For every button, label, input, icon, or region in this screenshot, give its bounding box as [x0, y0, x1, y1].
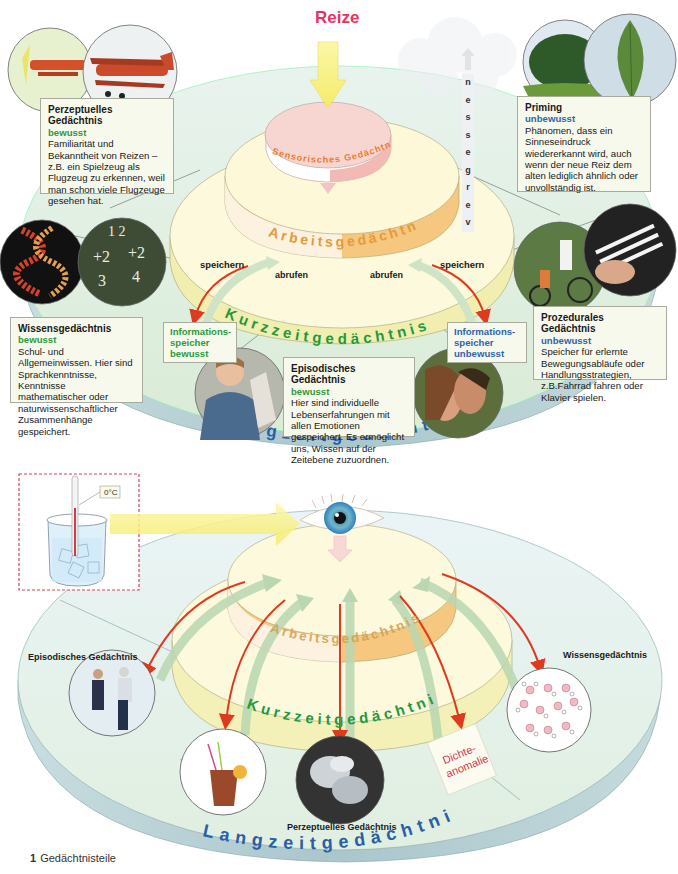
photo-dna [0, 220, 84, 304]
card-title: Episodisches Gedächtnis [291, 363, 407, 386]
card-text: Schul- und Allgemeinwissen. Hier sind Sp… [18, 346, 135, 437]
svg-text:1 2: 1 2 [108, 224, 126, 239]
forget-letter: g [462, 162, 474, 180]
photo-piano [584, 204, 676, 296]
photo-water-molecules [507, 668, 591, 752]
card-text: Speicher für erlernte Bewegungsabläufe o… [541, 346, 659, 403]
card-type: unbewusst [541, 335, 659, 346]
forget-letter: r [462, 179, 474, 197]
card-episodic-memory: Episodisches Gedächtnis bewusst Hier sin… [283, 357, 415, 437]
store-right-label: speichern [440, 259, 484, 270]
caption-text: Gedächtnisteile [40, 852, 116, 864]
retrieve-right-label: abrufen [370, 270, 403, 280]
card-type: unbewusst [525, 113, 643, 124]
photo-iced-drink [180, 729, 266, 815]
card-title: Priming [525, 102, 643, 113]
svg-text:+2: +2 [93, 248, 110, 265]
caption-number: 1 [30, 852, 36, 864]
perceptual-label-bottom: Perzeptuelles Gedächtnis [287, 822, 397, 832]
svg-text:0°C: 0°C [104, 488, 118, 497]
photo-ice-skating [69, 650, 155, 736]
photo-leaf [584, 14, 676, 106]
figure-caption: 1Gedächtnisteile [30, 852, 116, 864]
knowledge-label-bottom: Wissensgedächtnis [563, 650, 647, 660]
forget-letter: n [462, 74, 474, 92]
card-knowledge-memory: Wissensgedächtnis bewusst Schul- und All… [10, 317, 143, 403]
retrieve-left-label: abrufen [275, 270, 308, 280]
store-left-label: speichern [200, 259, 244, 270]
forgetting-label: n e s s e g r e v [462, 74, 474, 232]
card-type: bewusst [18, 334, 135, 345]
episodic-label-bottom: Episodisches Gedächtnis [28, 652, 138, 662]
svg-text:3: 3 [98, 272, 106, 289]
card-text: Familiarität und Bekanntheit von Reizen … [48, 138, 166, 206]
card-priming: Priming unbewusst Phänomen, dass ein Sin… [517, 96, 651, 192]
forget-letter: e [462, 92, 474, 110]
stimuli-label: Reize [315, 8, 359, 28]
card-procedural-memory: Prozedurales Gedächtnis unbewusst Speich… [533, 306, 667, 380]
tag-line: unbewusst [454, 348, 520, 359]
forget-letter: v [462, 214, 474, 232]
card-title: Prozedurales Gedächtnis [541, 312, 659, 335]
photo-ice-cubes [296, 736, 384, 824]
card-type: bewusst [291, 386, 407, 397]
card-perceptual-memory: Perzeptuelles Gedächtnis bewusst Familia… [40, 98, 174, 194]
tag-line: bewusst [170, 348, 230, 359]
tag-line: Informations- [454, 326, 520, 337]
card-text: Phänomen, dass ein Sinneseindruck wieder… [525, 125, 643, 193]
info-store-unconscious: Informations- speicher unbewusst [447, 322, 527, 363]
forget-letter: s [462, 109, 474, 127]
card-title: Perzeptuelles Gedächtnis [48, 104, 166, 127]
tag-line: speicher [170, 337, 230, 348]
info-store-conscious: Informations- speicher bewusst [163, 322, 237, 363]
tag-line: speicher [454, 337, 520, 348]
card-title: Wissensgedächtnis [18, 323, 135, 334]
card-type: bewusst [48, 127, 166, 138]
svg-text:+2: +2 [128, 244, 145, 261]
forget-letter: e [462, 144, 474, 162]
svg-text:4: 4 [132, 268, 140, 285]
tag-line: Informations- [170, 326, 230, 337]
forget-letter: e [462, 197, 474, 215]
card-text: Hier sind individuelle Lebenserfahrungen… [291, 397, 407, 465]
photo-chalkboard: +2 3 +2 4 1 2 [78, 218, 166, 306]
forget-letter: s [462, 127, 474, 145]
